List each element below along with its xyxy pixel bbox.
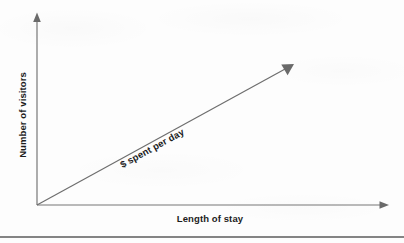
chart-figure: Number of visitors Length of stay $ spen… — [0, 0, 404, 243]
x-axis — [37, 201, 389, 209]
bottom-divider — [0, 236, 404, 238]
x-axis-label: Length of stay — [177, 213, 243, 224]
plot-area — [0, 0, 404, 243]
arrow-up-icon — [33, 13, 41, 23]
arrow-right-icon — [380, 201, 390, 209]
y-axis-label: Number of visitors — [17, 72, 28, 158]
y-axis — [33, 13, 41, 206]
